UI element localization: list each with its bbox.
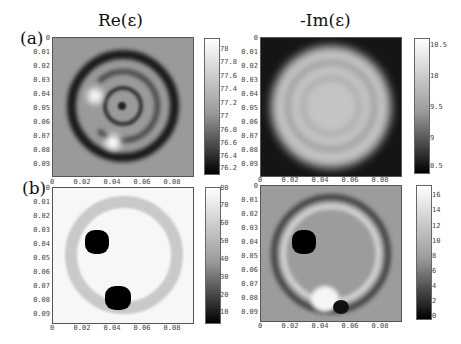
heatmap-a-re — [52, 37, 194, 177]
inclusion-1 — [85, 230, 109, 254]
title-im: -Im(ε) — [300, 10, 351, 30]
colorbar-a-im — [414, 38, 430, 174]
heatmap-b-re — [52, 187, 194, 324]
inclusion-dark — [292, 230, 316, 254]
colorbar-b-re — [205, 187, 221, 324]
heatmap-a-im — [260, 37, 402, 177]
title-re: Re(ε) — [98, 10, 143, 30]
inclusion-2 — [105, 286, 131, 310]
colorbar-b-im — [416, 185, 432, 320]
colorbar-a-re — [204, 38, 220, 175]
heatmap-b-im — [260, 185, 402, 322]
